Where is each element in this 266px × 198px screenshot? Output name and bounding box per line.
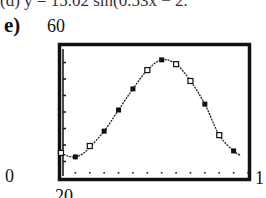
filled-data-point (231, 148, 236, 153)
filled-data-point (73, 154, 78, 159)
hollow-data-point (59, 150, 64, 155)
filled-data-point (202, 102, 207, 107)
hollow-data-point (87, 143, 92, 148)
filled-data-point (102, 129, 107, 134)
graph-window-frame (60, 45, 250, 180)
calculator-graph (0, 0, 266, 198)
hollow-data-point (174, 62, 179, 67)
hollow-data-point (188, 78, 193, 83)
hollow-data-point (217, 133, 222, 138)
filled-data-point (130, 86, 135, 91)
hollow-data-point (145, 68, 150, 73)
filled-data-point (116, 108, 121, 113)
filled-data-point (159, 57, 164, 62)
